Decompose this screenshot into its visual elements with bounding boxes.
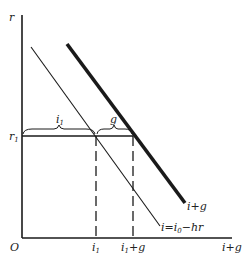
r1-label: r1 bbox=[9, 130, 19, 144]
investment-demand-label: i=i0−hr bbox=[161, 221, 204, 235]
origin-label: O bbox=[10, 241, 19, 254]
y-axis-label: r bbox=[9, 11, 15, 24]
x-axis-label: i+g bbox=[222, 241, 242, 254]
i1-brace-label: i1 bbox=[56, 113, 64, 127]
g-brace-label: g bbox=[110, 113, 117, 126]
is-diagram: r O i+g r1 i1 g i1 i1+g i+g i=i0−hr bbox=[0, 0, 246, 260]
i1-plus-g-tick-label: i1+g bbox=[121, 241, 145, 255]
i1-tick-label: i1 bbox=[92, 241, 100, 255]
investment-plus-government-label: i+g bbox=[187, 200, 207, 213]
